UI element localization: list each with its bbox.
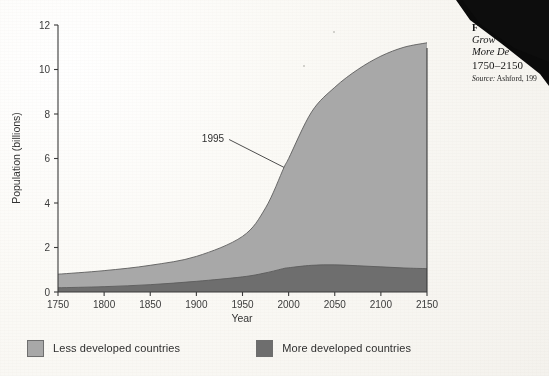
y-axis-tick-labels: 024681012 xyxy=(39,20,51,298)
svg-text:2050: 2050 xyxy=(324,299,347,310)
svg-text:1950: 1950 xyxy=(231,299,254,310)
svg-text:10: 10 xyxy=(39,64,51,75)
svg-text:2: 2 xyxy=(44,242,50,253)
area-less-developed xyxy=(58,43,427,292)
svg-text:0: 0 xyxy=(44,287,50,298)
legend-label-less-developed: Less developed countries xyxy=(53,342,180,354)
caption-source: Source: Ashford, 199 xyxy=(472,75,549,84)
caption-line-1: Grow xyxy=(472,34,549,46)
legend-swatch-less-developed xyxy=(27,340,44,357)
caption-line-2: More De xyxy=(472,46,549,58)
legend-item-less-developed: Less developed countries xyxy=(27,340,180,357)
y-axis-title: Population (billions) xyxy=(10,112,22,204)
annotation-1995-label: 1995 xyxy=(202,133,225,144)
legend-swatch-more-developed xyxy=(256,340,273,357)
svg-text:2100: 2100 xyxy=(370,299,393,310)
svg-text:2000: 2000 xyxy=(278,299,301,310)
svg-text:1850: 1850 xyxy=(139,299,162,310)
svg-text:1900: 1900 xyxy=(185,299,208,310)
annotation-1995-leader-line xyxy=(229,140,284,168)
svg-text:4: 4 xyxy=(44,198,50,209)
legend-item-more-developed: More developed countries xyxy=(256,340,411,357)
y-axis-ticks xyxy=(54,25,58,292)
svg-text:1750: 1750 xyxy=(47,299,70,310)
x-axis-ticks xyxy=(58,292,427,296)
caption-figure-number: F xyxy=(472,22,549,34)
chart-legend: Less developed countries More developed … xyxy=(27,336,447,360)
caption-year-range: 1750–2150 xyxy=(472,59,549,72)
svg-text:1800: 1800 xyxy=(93,299,116,310)
caption-source-text: Ashford, 199 xyxy=(495,74,537,83)
caption-source-label: Source: xyxy=(472,74,495,83)
svg-text:12: 12 xyxy=(39,20,51,31)
svg-text:2150: 2150 xyxy=(416,299,439,310)
x-axis-tick-labels: 175018001850190019502000205021002150 xyxy=(47,299,439,310)
x-axis-title: Year xyxy=(231,312,253,324)
legend-label-more-developed: More developed countries xyxy=(282,342,411,354)
svg-text:6: 6 xyxy=(44,153,50,164)
svg-text:8: 8 xyxy=(44,109,50,120)
population-growth-area-chart: 024681012 175018001850190019502000205021… xyxy=(0,0,460,330)
figure-caption: F Grow More De 1750–2150 Source: Ashford… xyxy=(472,22,549,108)
